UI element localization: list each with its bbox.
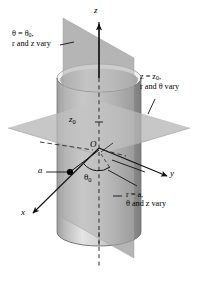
annotation-plane-z-line1: z = z bbox=[140, 72, 156, 81]
z0-label: z0 bbox=[69, 114, 76, 125]
z0-subscript: 0 bbox=[73, 118, 76, 125]
axis-label-y: y bbox=[170, 168, 174, 178]
point-a-marker bbox=[67, 169, 73, 175]
figure-cylindrical-coordinates: z y x O z0 θ0 a θ = θ0, r and z vary z =… bbox=[0, 0, 200, 284]
axis-label-z: z bbox=[94, 5, 98, 15]
annotation-plane-theta-line2: r and z vary bbox=[12, 39, 51, 48]
annotation-plane-theta-tail: , bbox=[32, 29, 34, 38]
annotation-cylinder-r-tail: , bbox=[141, 190, 143, 199]
annotation-cylinder-r-line2: θ and z vary bbox=[126, 199, 166, 208]
annotation-plane-theta: θ = θ0, r and z vary bbox=[12, 29, 51, 48]
annotation-cylinder-r-line1: r = a bbox=[126, 190, 141, 199]
theta0-label: θ0 bbox=[84, 172, 92, 183]
leader-plane-z bbox=[148, 99, 155, 114]
annotation-plane-z: z = z0, r and θ vary bbox=[140, 72, 179, 91]
annotation-plane-theta-line1: θ = θ bbox=[12, 29, 29, 38]
annotation-cylinder-r: r = a, θ and z vary bbox=[126, 190, 166, 208]
axis-label-x: x bbox=[21, 207, 25, 217]
origin-label: O bbox=[90, 139, 97, 149]
radius-a-label: a bbox=[38, 166, 42, 176]
annotation-plane-z-line2: r and θ vary bbox=[140, 82, 179, 91]
theta0-subscript: 0 bbox=[88, 176, 91, 183]
annotation-plane-z-tail: , bbox=[159, 72, 161, 81]
